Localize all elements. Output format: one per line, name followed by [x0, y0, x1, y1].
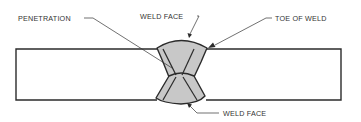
penetration-leader — [84, 18, 172, 68]
toe-of-weld-leader — [215, 18, 272, 45]
arrow-head-icon — [188, 33, 193, 38]
label-toe-of-weld: TOE OF WELD — [275, 15, 327, 22]
arrow-head-icon — [208, 43, 216, 49]
left-plate — [16, 49, 161, 100]
label-penetration: PENETRATION — [18, 15, 71, 22]
label-weld-face-top: WELD FACE — [140, 13, 183, 20]
label-weld-face-bottom: WELD FACE — [223, 110, 266, 117]
weld-face-bottom-leader — [190, 106, 219, 113]
top-weld-bead — [157, 41, 207, 78]
right-plate — [202, 49, 341, 100]
weld-face-top-leader — [190, 16, 199, 34]
